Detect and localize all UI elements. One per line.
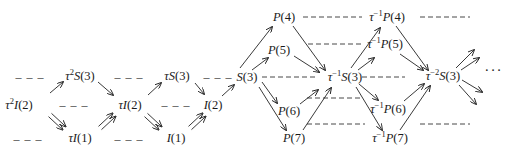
- quiver-node-P7: P(7): [283, 132, 305, 145]
- quiver-node-t2I2: τ2I(2): [5, 99, 32, 112]
- double-arrow-line: [49, 117, 63, 130]
- double-arrow-line: [99, 113, 113, 126]
- quiver-node-ti1P7: τ−1P(7): [372, 132, 408, 145]
- irreducible-map-arrow: [400, 54, 423, 70]
- double-arrow-line: [51, 113, 65, 126]
- dash-separator: – – –: [16, 70, 45, 85]
- irreducible-map-arrow: [50, 82, 63, 93]
- irreducible-map-arrow: [195, 83, 204, 94]
- quiver-node-tS3: τS(3): [164, 70, 189, 83]
- quiver-node-t2S3: τ2S(3): [65, 70, 95, 83]
- double-arrow-line: [189, 113, 203, 126]
- quiver-node-I2: I(2): [204, 99, 223, 112]
- quiver-node-S3: S(3): [237, 71, 258, 84]
- quiver-node-tI2: τI(2): [118, 99, 141, 112]
- irreducible-map-arrow: [459, 85, 476, 104]
- quiver-node-P5: P(5): [268, 44, 290, 57]
- quiver-node-ti1P5: τ−1P(5): [367, 38, 403, 51]
- dash-separator: – – –: [115, 70, 144, 85]
- quiver-node-ti1P6: τ−1P(6): [370, 103, 406, 116]
- double-arrow-line: [147, 113, 161, 126]
- quiver-node-I1: I(1): [167, 132, 186, 145]
- quiver-node-ti1S3: τ−1S(3): [328, 71, 362, 84]
- quiver-node-ti1P4: τ−1P(4): [369, 11, 405, 24]
- double-arrow-line: [145, 117, 159, 130]
- dash-separator: – – –: [204, 70, 233, 85]
- dash-separator: – – –: [162, 98, 191, 113]
- irreducible-map-arrow: [293, 26, 325, 70]
- irreducible-map-arrow: [222, 85, 234, 96]
- irreducible-map-arrow: [359, 84, 378, 100]
- irreducible-map-arrow: [300, 90, 318, 104]
- irreducible-map-arrow: [358, 58, 374, 70]
- continuation-ellipsis: ···: [485, 63, 503, 78]
- irreducible-map-arrow: [462, 80, 482, 92]
- quiver-node-P4: P(4): [273, 11, 295, 24]
- quiver-node-P6: P(6): [278, 105, 300, 118]
- dash-separator: – – –: [60, 98, 89, 113]
- irreducible-map-arrow: [252, 58, 268, 70]
- double-arrow-line: [191, 117, 205, 130]
- double-arrows: [49, 113, 206, 129]
- double-arrow-line: [101, 117, 115, 130]
- dash-separator: – – –: [115, 132, 144, 147]
- irreducible-map-arrow: [98, 82, 113, 95]
- quiver-node-ti2S3: τ−2S(3): [426, 70, 460, 83]
- irreducible-map-arrow: [148, 83, 161, 95]
- quiver-node-tI1: τI(1): [68, 132, 91, 145]
- irreducible-map-arrow: [262, 82, 277, 103]
- irreducible-map-arrow: [456, 50, 474, 68]
- dash-separator: – – –: [14, 132, 43, 147]
- irreducible-map-arrow: [294, 56, 319, 72]
